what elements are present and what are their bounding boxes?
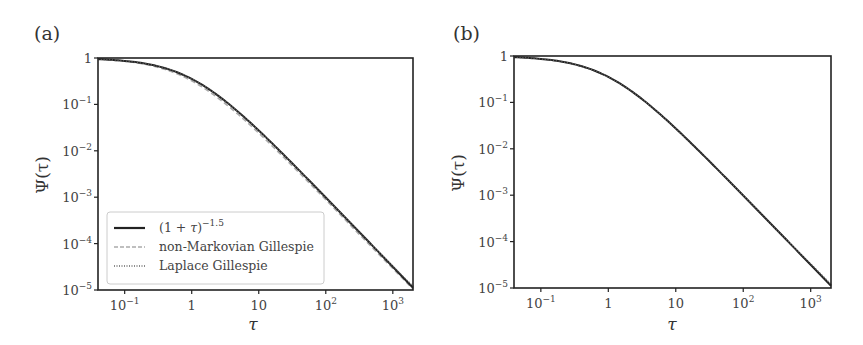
legend-entry-laplace: Laplace Gillespie xyxy=(159,258,268,273)
y-ticks-a: 110−110−210−310−410−5 xyxy=(62,51,98,298)
y-tick-label: 10−4 xyxy=(62,235,92,252)
x-tick-label: 103 xyxy=(800,294,823,311)
y-ticks-b: 110−110−210−310−410−5 xyxy=(478,49,514,296)
panel-a: (a) 110−110−210−310−410−5 10−1110102103 … xyxy=(0,0,431,345)
axes-frame-b xyxy=(514,56,831,288)
series-line-dashed xyxy=(514,57,831,285)
y-tick-label: 10−3 xyxy=(478,186,508,203)
panel-b: (b) 110−110−210−310−410−5 10−1110102103 … xyxy=(418,0,849,345)
legend-a: (1 + τ)−1.5 non-Markovian Gillespie Lapl… xyxy=(107,212,324,284)
x-axis-label-b: τ xyxy=(667,314,677,334)
x-tick-label: 102 xyxy=(315,296,337,313)
x-ticks-b: 10−1110102103 xyxy=(526,288,822,311)
x-tick-label: 10−1 xyxy=(526,294,556,311)
y-tick-label: 10−5 xyxy=(62,281,92,298)
y-tick-label: 10−1 xyxy=(62,95,92,112)
y-tick-label: 10−5 xyxy=(478,279,508,296)
x-tick-label: 1 xyxy=(604,296,612,311)
y-tick-label: 1 xyxy=(84,51,92,66)
chart-a: 110−110−210−310−410−5 10−1110102103 τ Ψ(… xyxy=(0,0,431,345)
plot-lines-b xyxy=(514,57,831,286)
y-tick-label: 10−2 xyxy=(62,142,92,159)
x-tick-label: 102 xyxy=(732,294,754,311)
y-axis-label-a: Ψ(τ) xyxy=(32,156,52,194)
x-tick-label: 10−1 xyxy=(110,296,140,313)
x-tick-label: 10 xyxy=(667,296,684,311)
y-axis-label-b: Ψ(τ) xyxy=(448,154,468,192)
y-tick-label: 10−3 xyxy=(62,188,92,205)
y-tick-label: 10−4 xyxy=(478,233,508,250)
y-tick-label: 10−1 xyxy=(478,93,508,110)
series-line-solid xyxy=(514,57,831,286)
x-axis-label-a: τ xyxy=(248,314,258,334)
x-tick-label: 10 xyxy=(250,298,267,313)
y-tick-label: 1 xyxy=(500,49,508,64)
chart-b: 110−110−210−310−410−5 10−1110102103 τ Ψ(… xyxy=(418,0,849,345)
x-ticks-a: 10−1110102103 xyxy=(110,290,404,313)
x-tick-label: 1 xyxy=(188,298,196,313)
x-tick-label: 103 xyxy=(382,296,405,313)
series-line-dotted xyxy=(514,57,831,284)
legend-entry-nonmarkovian: non-Markovian Gillespie xyxy=(159,239,314,254)
y-tick-label: 10−2 xyxy=(478,140,508,157)
